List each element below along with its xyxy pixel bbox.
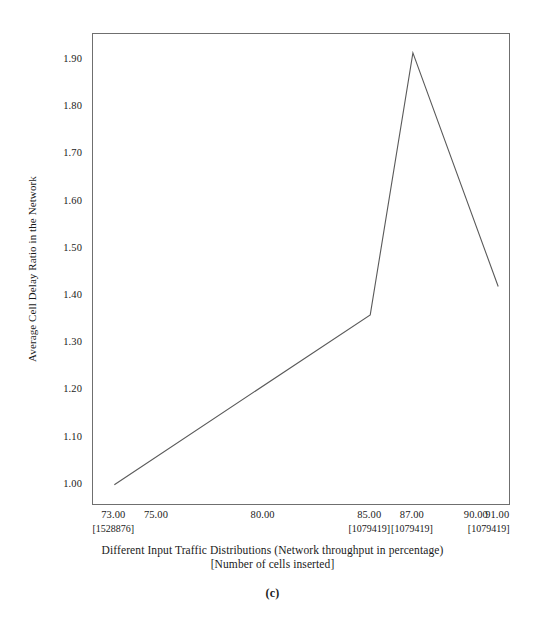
x-axis-title-line2: [Number of cells inserted] bbox=[0, 557, 545, 571]
x-axis-title: Different Input Traffic Distributions (N… bbox=[0, 543, 545, 571]
x-axis-tick-label: 91.00 bbox=[485, 508, 509, 521]
x-axis-tick-label: 87.00 bbox=[400, 508, 424, 521]
y-axis-tick-label: 1.30 bbox=[63, 337, 82, 347]
figure-container: Average Cell Delay Ratio in the Network … bbox=[0, 0, 545, 623]
y-axis-tick-label: 1.80 bbox=[63, 101, 82, 111]
x-axis-bracket-label: [1079419] bbox=[468, 522, 510, 535]
x-axis-bracket-labels: [1528876][1079419][1079419][1079419] bbox=[0, 522, 545, 538]
y-axis-tick-label: 1.00 bbox=[63, 479, 82, 489]
x-axis-bracket-label: [1079419] bbox=[348, 522, 390, 535]
x-axis-tick-label: 85.00 bbox=[357, 508, 381, 521]
y-axis-tick-label: 1.20 bbox=[63, 384, 82, 394]
y-axis-tick-label: 1.70 bbox=[63, 148, 82, 158]
y-axis-tick-label: 1.60 bbox=[63, 196, 82, 206]
y-axis-tick-label: 1.10 bbox=[63, 432, 82, 442]
y-axis-tick-label: 1.50 bbox=[63, 243, 82, 253]
y-axis-tick-label: 1.90 bbox=[63, 54, 82, 64]
figure-caption: (c) bbox=[0, 586, 545, 601]
x-axis-tick-label: 80.00 bbox=[251, 508, 275, 521]
x-axis-title-line1: Different Input Traffic Distributions (N… bbox=[102, 544, 444, 556]
x-axis-tick-label: 73.00 bbox=[101, 508, 125, 521]
data-series-line bbox=[114, 53, 498, 485]
x-axis-tick-label: 75.00 bbox=[144, 508, 168, 521]
x-axis-bracket-label: [1079419] bbox=[391, 522, 433, 535]
data-line-svg bbox=[93, 34, 511, 506]
x-axis-bracket-label: [1528876] bbox=[92, 522, 134, 535]
plot-area bbox=[92, 33, 510, 505]
y-axis-tick-labels: 1.001.101.201.301.401.501.601.701.801.90 bbox=[0, 33, 88, 505]
y-axis-tick-label: 1.40 bbox=[63, 290, 82, 300]
